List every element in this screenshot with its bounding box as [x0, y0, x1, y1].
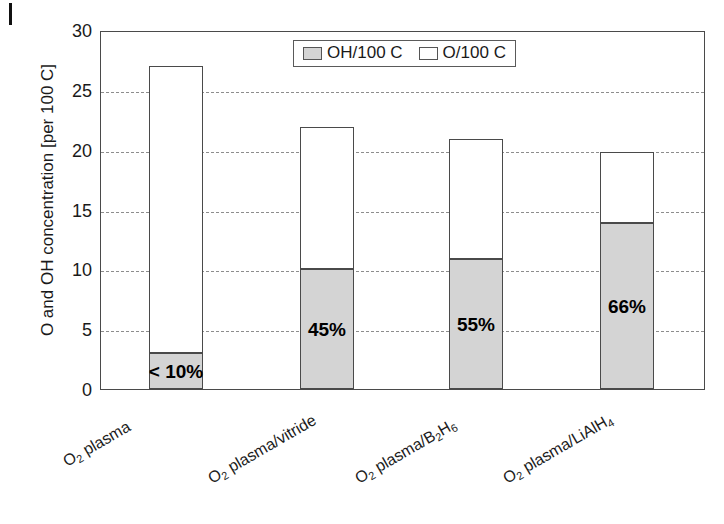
plot-area: < 10%45%55%66%	[100, 31, 705, 390]
y-tick-label: 10	[30, 261, 92, 279]
gray-swatch-icon	[303, 47, 322, 60]
legend-item-oh: OH/100 C	[303, 44, 403, 62]
y-tick-label: 15	[30, 202, 92, 220]
bar-segment-o	[449, 139, 503, 259]
y-tick-label: 0	[30, 381, 92, 399]
legend-item-o: O/100 C	[419, 44, 506, 62]
y-tick-label: 20	[30, 142, 92, 160]
bar-segment-o	[600, 152, 654, 223]
bar-percent-label: 45%	[308, 319, 346, 341]
bar-percent-label: 66%	[608, 296, 646, 318]
bar-segment-o	[149, 66, 203, 353]
figure-canvas: O and OH concentration [per 100 C] 05101…	[0, 0, 724, 524]
bar-3: 55%	[449, 139, 503, 389]
bar-4: 66%	[600, 152, 654, 389]
legend-label-o: O/100 C	[443, 44, 506, 62]
bar-segment-o	[300, 127, 354, 269]
bar-1: < 10%	[149, 66, 203, 389]
y-tick-label: 25	[30, 82, 92, 100]
y-tick-label: 30	[30, 22, 92, 40]
legend-label-oh: OH/100 C	[327, 44, 403, 62]
bar-2: 45%	[300, 127, 354, 389]
white-swatch-icon	[419, 47, 438, 60]
y-tick-label: 5	[30, 321, 92, 339]
legend: OH/100 C O/100 C	[293, 40, 516, 67]
bar-percent-label: 55%	[457, 314, 495, 336]
bar-percent-label: < 10%	[149, 361, 203, 383]
